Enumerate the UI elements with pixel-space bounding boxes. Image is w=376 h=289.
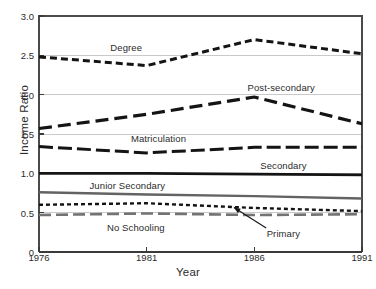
series-label-primary: Primary [267, 227, 300, 238]
series-label-secondary: Secondary [260, 159, 306, 170]
series-line-2 [39, 147, 362, 153]
plot-area [0, 0, 376, 289]
series-line-0 [39, 40, 362, 66]
series-label-junior-secondary: Junior Secondary [90, 179, 166, 190]
series-line-4 [39, 192, 362, 198]
series-line-6 [39, 213, 362, 215]
series-label-matriculation: Matriculation [131, 132, 186, 143]
series-label-no-schooling: No Schooling [107, 222, 165, 233]
income-ratio-line-chart: Income Ratio Year 00.51.01.52.02.53.0 19… [0, 0, 376, 289]
series-line-5 [39, 203, 362, 211]
series-label-degree: Degree [110, 42, 142, 53]
series-line-1 [39, 97, 362, 128]
series-line-3 [39, 173, 362, 175]
series-label-post-secondary: Post-secondary [248, 81, 315, 92]
